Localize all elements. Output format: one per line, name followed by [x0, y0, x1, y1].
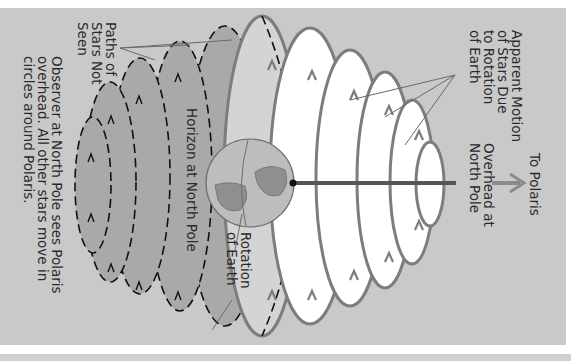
- star-paths-diagram: Apparent Motion of Stars Due to Rotation…: [0, 0, 571, 361]
- label-overhead-at-north-pole: Overhead at North Pole: [467, 143, 497, 227]
- diagram-stage: Apparent Motion of Stars Due to Rotation…: [0, 0, 571, 361]
- earth-globe: [206, 139, 294, 227]
- label-horizon-at-north-pole: Horizon at North Pole: [184, 108, 200, 252]
- label-to-polaris: To Polaris: [527, 152, 543, 216]
- label-rotation-line-2: of Earth: [224, 232, 240, 286]
- label-rotation-of-earth: Rotation of Earth: [224, 232, 254, 288]
- label-apparent-motion-line-4: of Earth: [467, 30, 483, 84]
- caption-line-3: circles around Polaris.: [21, 56, 37, 204]
- visible-star-paths: [268, 28, 444, 324]
- label-paths-not-seen: Paths of Stars Not Seen: [75, 22, 119, 85]
- label-apparent-motion: Apparent Motion of Stars Due to Rotation…: [467, 30, 525, 142]
- label-paths-line-3: Seen: [75, 22, 91, 56]
- caption: Observer at North Pole sees Polaris over…: [21, 56, 65, 294]
- label-overhead-line-2: North Pole: [467, 143, 483, 213]
